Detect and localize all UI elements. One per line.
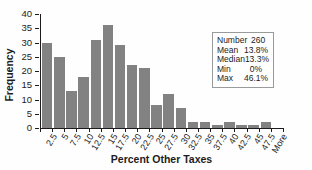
x-axis-title: Percent Other Taxes bbox=[40, 153, 283, 165]
x-tick-mark bbox=[149, 129, 150, 132]
y-tick-label-10: 10 bbox=[21, 94, 32, 106]
bar-47.5 bbox=[261, 122, 272, 128]
stats-label: Max bbox=[217, 74, 233, 84]
bar-20 bbox=[127, 65, 138, 128]
stats-value: 46.1% bbox=[243, 74, 269, 84]
y-axis: 0510152025303540 bbox=[0, 14, 40, 128]
stats-box: Number260Mean13.8%Median13.3%Min0%Max46.… bbox=[212, 32, 274, 88]
y-tick-label-20: 20 bbox=[21, 65, 32, 77]
x-tick-mark bbox=[89, 129, 90, 132]
bar-12.5 bbox=[91, 40, 102, 128]
x-tick-mark bbox=[76, 129, 77, 132]
x-tick-label-text: 2.5 bbox=[43, 132, 58, 148]
y-tick-mark bbox=[35, 100, 39, 101]
y-tick-label-15: 15 bbox=[21, 79, 32, 91]
bar-5 bbox=[54, 57, 65, 128]
x-tick-mark bbox=[113, 129, 114, 132]
stats-row-max: Max46.1% bbox=[217, 74, 269, 84]
bar-10 bbox=[78, 77, 89, 128]
y-tick-mark bbox=[35, 128, 39, 129]
y-tick-label-40: 40 bbox=[21, 8, 32, 20]
y-tick-mark bbox=[35, 85, 39, 86]
x-tick-mark bbox=[271, 129, 272, 132]
bar-30 bbox=[176, 108, 187, 128]
bar-40 bbox=[224, 122, 235, 128]
x-tick-mark bbox=[125, 129, 126, 132]
bar-32.5 bbox=[188, 122, 199, 128]
y-tick-mark bbox=[35, 71, 39, 72]
histogram-chart: Frequency 0510152025303540 2.557.51012.5… bbox=[0, 0, 312, 170]
x-tick-mark bbox=[52, 129, 53, 132]
y-tick-label-5: 5 bbox=[27, 108, 32, 120]
bar-45 bbox=[248, 125, 259, 128]
bar-22.5 bbox=[139, 68, 150, 128]
bar-7.5 bbox=[66, 91, 77, 128]
bar-35 bbox=[200, 122, 211, 128]
y-tick-label-30: 30 bbox=[21, 37, 32, 49]
y-tick-label-35: 35 bbox=[21, 22, 32, 34]
x-tick-mark bbox=[234, 129, 235, 132]
x-tick-mark bbox=[186, 129, 187, 132]
x-tick-mark bbox=[40, 129, 41, 132]
x-tick-mark bbox=[210, 129, 211, 132]
y-tick-label-0: 0 bbox=[27, 122, 32, 134]
bar-17.5 bbox=[115, 45, 126, 128]
x-tick-mark bbox=[174, 129, 175, 132]
x-tick-mark bbox=[283, 129, 284, 132]
bar-2.5 bbox=[42, 43, 53, 129]
y-tick-mark bbox=[35, 43, 39, 44]
x-tick-mark bbox=[198, 129, 199, 132]
x-tick-mark bbox=[101, 129, 102, 132]
bar-37.5 bbox=[212, 125, 223, 128]
y-tick-mark bbox=[35, 57, 39, 58]
bar-15 bbox=[103, 25, 114, 128]
x-tick-mark bbox=[137, 129, 138, 132]
bar-42.5 bbox=[236, 125, 247, 128]
bar-25 bbox=[151, 105, 162, 128]
x-tick-mark bbox=[222, 129, 223, 132]
x-tick-mark bbox=[247, 129, 248, 132]
y-tick-label-25: 25 bbox=[21, 51, 32, 63]
bar-27.5 bbox=[163, 94, 174, 128]
y-tick-mark bbox=[35, 28, 39, 29]
x-tick-mark bbox=[259, 129, 260, 132]
y-tick-mark bbox=[35, 114, 39, 115]
y-tick-mark bbox=[35, 14, 39, 15]
x-tick-mark bbox=[162, 129, 163, 132]
x-tick-mark bbox=[64, 129, 65, 132]
